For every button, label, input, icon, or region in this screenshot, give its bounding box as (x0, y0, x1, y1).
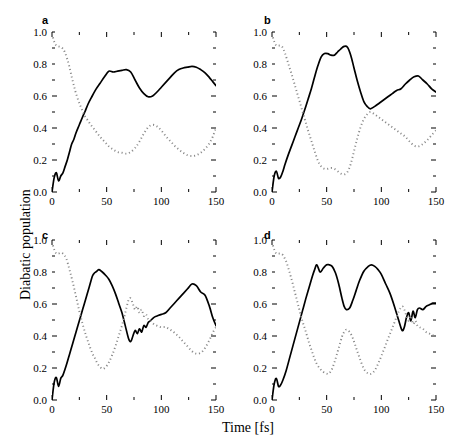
panel-b-plot: 0501001500.00.20.40.60.81.0 (232, 0, 465, 215)
x-tick-label: 150 (428, 403, 445, 415)
y-tick-label: 0.2 (253, 154, 267, 166)
x-tick-label: 0 (49, 403, 55, 415)
y-tick-label: 0.4 (253, 122, 267, 134)
y-tick-label: 0.0 (33, 186, 47, 198)
series-dotted (52, 242, 216, 369)
panel-a-plot: 0501001500.00.20.40.60.81.0 (0, 0, 235, 215)
y-tick-label: 0.4 (253, 330, 267, 342)
y-tick-label: 0.8 (33, 58, 47, 70)
y-tick-label: 1.0 (253, 26, 267, 38)
x-tick-label: 100 (373, 195, 390, 207)
panel-d-plot: 0501001500.00.20.40.60.81.0 (232, 218, 465, 423)
y-tick-label: 1.0 (33, 26, 47, 38)
y-tick-label: 0.6 (33, 90, 47, 102)
x-tick-label: 50 (101, 403, 113, 415)
y-tick-label: 0.0 (253, 394, 267, 406)
y-tick-label: 0.6 (33, 298, 47, 310)
y-tick-label: 0.0 (33, 394, 47, 406)
series-dotted (272, 242, 436, 375)
y-tick-label: 0.8 (33, 266, 47, 278)
y-tick-label: 0.6 (253, 298, 267, 310)
x-tick-label: 0 (269, 195, 275, 207)
y-tick-label: 1.0 (253, 234, 267, 246)
x-tick-label: 150 (428, 195, 445, 207)
series-dotted (272, 34, 436, 175)
y-tick-label: 0.4 (33, 330, 47, 342)
y-tick-label: 0.6 (253, 90, 267, 102)
x-tick-label: 50 (321, 403, 333, 415)
x-tick-label: 100 (153, 403, 170, 415)
series-solid (52, 270, 216, 400)
x-tick-label: 100 (373, 403, 390, 415)
x-tick-label: 150 (208, 195, 225, 207)
x-tick-label: 0 (269, 403, 275, 415)
y-tick-label: 0.2 (253, 362, 267, 374)
y-tick-label: 1.0 (33, 234, 47, 246)
figure-root: Diabatic population Time [fs] a 05010015… (0, 0, 465, 442)
x-tick-label: 150 (208, 403, 225, 415)
x-tick-label: 0 (49, 195, 55, 207)
series-dotted (52, 34, 216, 156)
series-solid (272, 46, 436, 192)
y-tick-label: 0.8 (253, 58, 267, 70)
series-solid (272, 264, 436, 400)
x-tick-label: 50 (101, 195, 113, 207)
y-tick-label: 0.8 (253, 266, 267, 278)
panel-c-plot: 0501001500.00.20.40.60.81.0 (0, 218, 235, 423)
y-tick-label: 0.2 (33, 154, 47, 166)
y-tick-label: 0.0 (253, 186, 267, 198)
y-tick-label: 0.2 (33, 362, 47, 374)
y-tick-label: 0.4 (33, 122, 47, 134)
x-tick-label: 100 (153, 195, 170, 207)
x-tick-label: 50 (321, 195, 333, 207)
series-solid (52, 66, 216, 192)
